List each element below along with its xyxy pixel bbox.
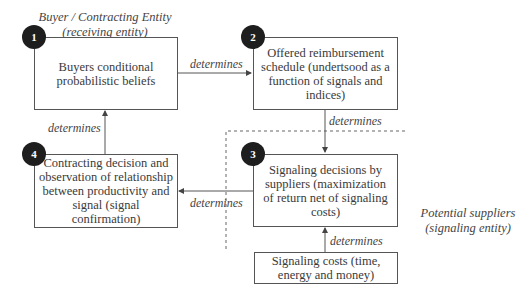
step-badge-3: 3 — [241, 142, 265, 166]
node-reimbursement-schedule: Offered reimbursement schedule (undertso… — [253, 37, 398, 110]
supplier-entity-subtitle: (signaling entity) — [412, 221, 524, 236]
node-signaling-decisions: Signaling decisions by suppliers (maximi… — [253, 154, 398, 227]
node-2-text: Offered reimbursement schedule (undertso… — [260, 46, 391, 102]
node-3-text: Signaling decisions by suppliers (maximi… — [262, 163, 389, 219]
edge-label-1-2: determines — [190, 57, 243, 72]
edge-label-costs-3: determines — [330, 234, 383, 249]
edge-label-4-1: determines — [48, 121, 101, 136]
buyer-entity-title: Buyer / Contracting Entity — [30, 10, 180, 25]
buyer-entity-label: Buyer / Contracting Entity (receiving en… — [30, 10, 180, 40]
edge-label-2-3: determines — [329, 114, 382, 129]
node-4-text: Contracting decision and observation of … — [39, 156, 173, 226]
step-badge-2: 2 — [241, 25, 265, 49]
node-1-text: Buyers conditional probabilistic beliefs — [55, 60, 157, 88]
cost-node-text: Signaling costs (time, energy and money) — [259, 254, 393, 282]
node-signaling-costs: Signaling costs (time, energy and money) — [254, 252, 398, 284]
node-buyer-beliefs: Buyers conditional probabilistic beliefs — [34, 37, 178, 110]
edge-label-3-4: determines — [190, 196, 243, 211]
supplier-entity-label: Potential suppliers (signaling entity) — [412, 206, 524, 236]
step-badge-4: 4 — [22, 142, 46, 166]
node-contracting-decision: Contracting decision and observation of … — [34, 154, 178, 228]
step-badge-1: 1 — [22, 25, 46, 49]
supplier-entity-title: Potential suppliers — [412, 206, 524, 221]
